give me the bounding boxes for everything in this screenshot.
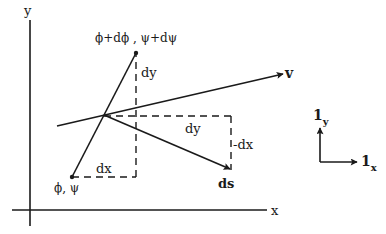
start-point-label: ϕ, ψ — [54, 182, 79, 194]
unit-y-base: 1 — [313, 107, 323, 123]
rotated-dy-label: dy — [185, 122, 201, 135]
end-point-label: ϕ+dϕ , ψ+dψ — [95, 32, 177, 44]
ds-vector-label: ds — [218, 177, 234, 190]
dx-label: dx — [96, 162, 112, 175]
unit-x-label: 1x — [361, 154, 377, 168]
unit-x-subscript: x — [371, 162, 377, 173]
v-vector — [57, 74, 283, 126]
x-axis-label: x — [271, 204, 278, 217]
neg-dx-label: -dx — [233, 138, 253, 151]
unit-y-subscript: y — [323, 116, 329, 127]
v-vector-label: v — [285, 66, 293, 80]
ds-vector — [104, 115, 230, 169]
end-point — [134, 51, 138, 55]
dy-label: dy — [141, 66, 157, 79]
diagram-canvas: y x ϕ+dϕ , ψ+dψ ϕ, ψ dy dx dy -dx v ds 1… — [0, 0, 386, 234]
unit-x-base: 1 — [361, 153, 371, 169]
y-axis-label: y — [24, 4, 31, 17]
unit-y-label: 1y — [313, 108, 329, 122]
